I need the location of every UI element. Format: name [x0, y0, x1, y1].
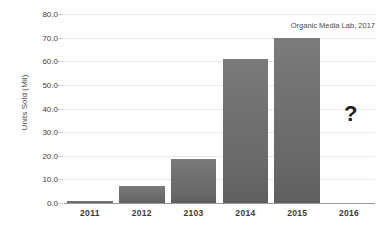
y-axis-tick-label: 70.0 [12, 33, 58, 42]
y-axis-tick-mark [58, 179, 63, 180]
bar-slot [64, 14, 116, 203]
bar [119, 186, 165, 203]
x-axis-tick-label: 2014 [220, 208, 272, 218]
y-axis-tick-mark [58, 132, 63, 133]
y-axis-tick-label: 20.0 [12, 151, 58, 160]
y-axis-tick-label: 60.0 [12, 57, 58, 66]
y-axis-tick-label: 10.0 [12, 175, 58, 184]
y-axis-tick-mark [58, 203, 63, 204]
y-axis-tick-label: 40.0 [12, 104, 58, 113]
y-axis-tick-mark [58, 85, 63, 86]
y-axis-tick-mark [58, 14, 63, 15]
y-axis-tick-label: 30.0 [12, 128, 58, 137]
y-axis-tick-label: 50.0 [12, 80, 58, 89]
bar-series [64, 14, 375, 203]
x-axis-tick-label: 2103 [168, 208, 220, 218]
chart-screenshot: Units Sold (Mil) Organic Media Lab, 2017… [0, 0, 384, 235]
bar [223, 59, 269, 203]
plot-area [64, 14, 375, 203]
y-axis-tick-label: 80.0 [12, 10, 58, 19]
y-axis-tick-mark [58, 61, 63, 62]
bar [67, 201, 113, 203]
y-axis-tick-mark [58, 38, 63, 39]
bar-slot [220, 14, 272, 203]
y-axis-tick-mark [58, 109, 63, 110]
bar [274, 38, 320, 203]
x-axis-tick-label: 2011 [64, 208, 116, 218]
bar-slot [168, 14, 220, 203]
y-axis-tick-label: 0.0 [12, 199, 58, 208]
bar-slot [116, 14, 168, 203]
x-axis-tick-label: 2016 [323, 208, 375, 218]
x-axis-tick-label: 2015 [271, 208, 323, 218]
bar [171, 159, 217, 203]
y-axis-tick-mark [58, 156, 63, 157]
unknown-value-marker: ? [344, 103, 357, 125]
bar-chart: Units Sold (Mil) Organic Media Lab, 2017… [0, 0, 384, 235]
bar-slot [271, 14, 323, 203]
x-axis-tick-label: 2012 [116, 208, 168, 218]
